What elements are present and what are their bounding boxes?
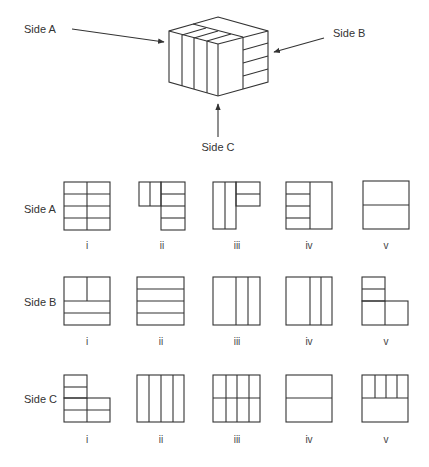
option-label-c-v: v — [384, 434, 389, 445]
option-c-i — [64, 375, 110, 422]
row-label-side-c: Side C — [24, 393, 57, 405]
option-a-iii — [213, 182, 260, 229]
cube-label-side-a: Side A — [24, 23, 56, 35]
option-label-a-ii: ii — [160, 240, 164, 251]
arrow-side-a — [72, 29, 164, 42]
option-label-b-iv: iv — [305, 336, 312, 347]
option-label-c-iv: iv — [305, 434, 312, 445]
option-label-b-v: v — [384, 336, 389, 347]
option-b-iv — [286, 277, 332, 325]
option-label-c-ii: ii — [159, 434, 163, 445]
option-label-a-v: v — [384, 240, 389, 251]
option-label-a-iii: iii — [234, 240, 241, 251]
option-a-v — [363, 181, 409, 229]
row-label-side-b: Side B — [24, 296, 56, 308]
option-c-ii — [137, 375, 184, 422]
option-c-iii — [213, 375, 260, 422]
option-c-v — [362, 375, 408, 422]
option-label-b-ii: ii — [159, 336, 163, 347]
option-label-c-iii: iii — [234, 434, 241, 445]
option-label-b-i: i — [86, 336, 88, 347]
option-b-ii — [137, 277, 184, 325]
option-a-ii — [139, 182, 185, 230]
option-label-a-iv: iv — [305, 240, 312, 251]
option-a-iv — [286, 182, 332, 229]
cube-label-side-c: Side C — [201, 141, 234, 153]
option-c-iv — [286, 375, 332, 422]
row-label-side-a: Side A — [24, 203, 56, 215]
cube-views-diagram: Side A Side B Side C Side A i ii iii iv — [0, 0, 429, 467]
option-b-iii — [213, 277, 260, 325]
arrow-side-b — [274, 38, 324, 52]
option-b-v — [362, 277, 408, 325]
option-label-c-i: i — [86, 434, 88, 445]
option-label-a-i: i — [86, 240, 88, 251]
cube-figure — [169, 17, 268, 96]
cube-label-side-b: Side B — [333, 27, 365, 39]
option-label-b-iii: iii — [234, 336, 241, 347]
option-a-i — [64, 182, 110, 230]
option-b-i — [64, 277, 110, 325]
